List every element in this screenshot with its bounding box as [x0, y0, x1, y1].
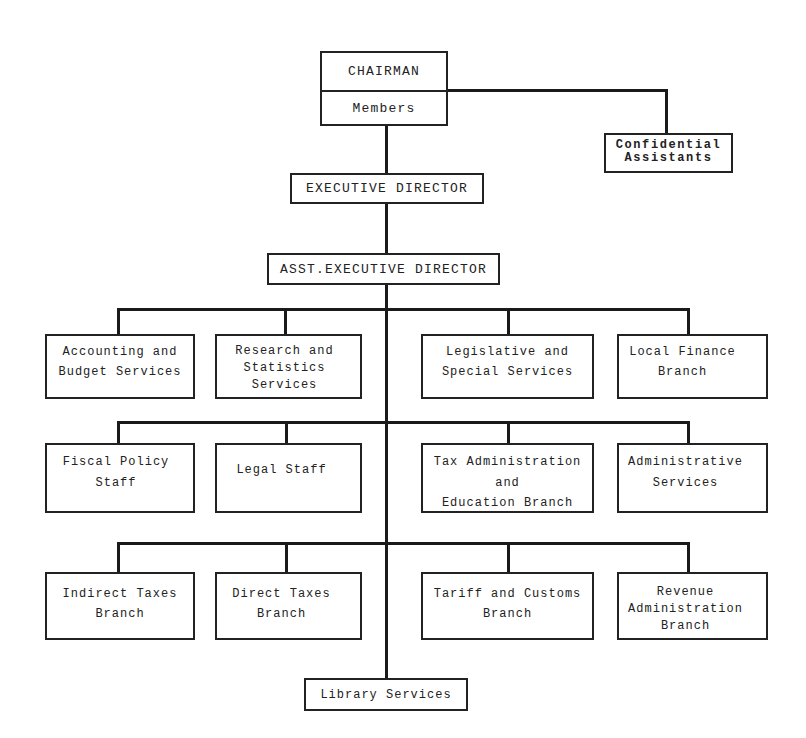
connector-tier3-drop: [507, 542, 510, 572]
executive-director-box: EXECUTIVE DIRECTOR: [290, 173, 484, 204]
unit-label-line: Local Finance: [619, 342, 746, 362]
connector-tier1-drop: [117, 308, 120, 334]
chairman-cell: CHAIRMAN: [322, 53, 446, 90]
unit-accounting-budget-services: Accounting and Budget Services: [45, 334, 195, 399]
connector-tier3-drop: [285, 542, 288, 572]
connector-tier1-drop: [507, 308, 510, 334]
org-chart: CHAIRMAN Members Confidential Assistants…: [0, 0, 806, 738]
connector-chairman-to-executive: [385, 126, 388, 173]
connector-tier3-drop: [687, 542, 690, 572]
unit-label-line: Branch: [619, 362, 746, 382]
chairman-label: CHAIRMAN: [348, 64, 420, 79]
connector-executive-to-asst: [385, 204, 388, 253]
unit-label-line: Tax Administration: [423, 452, 592, 473]
executive-director-label: EXECUTIVE DIRECTOR: [292, 181, 482, 196]
unit-direct-taxes-branch: Direct Taxes Branch: [215, 572, 362, 640]
unit-label-line: Legal Staff: [217, 460, 346, 481]
connector-tier2-bus: [117, 421, 690, 424]
asst-executive-director-box: ASST.EXECUTIVE DIRECTOR: [267, 253, 500, 285]
unit-legislative-special-services: Legislative and Special Services: [421, 334, 594, 399]
connector-tier1-drop: [284, 308, 287, 334]
unit-label-line: Branch: [423, 604, 592, 624]
unit-label-line: Direct Taxes: [217, 584, 346, 604]
unit-label-line: Assistants: [606, 152, 731, 165]
unit-label-line: Statistics: [217, 360, 352, 377]
asst-executive-director-label: ASST.EXECUTIVE DIRECTOR: [269, 262, 498, 277]
unit-label-line: and: [423, 473, 592, 494]
connector-tier2-drop: [687, 421, 690, 443]
unit-label-line: Branch: [619, 618, 752, 635]
connector-tier3-drop: [117, 542, 120, 572]
members-cell: Members: [322, 90, 446, 124]
unit-label-line: Fiscal Policy: [47, 452, 185, 473]
unit-tariff-customs-branch: Tariff and Customs Branch: [421, 572, 594, 640]
chairman-box: CHAIRMAN Members: [320, 51, 448, 126]
unit-indirect-taxes-branch: Indirect Taxes Branch: [45, 572, 195, 640]
connector-tier2-drop: [285, 421, 288, 443]
connector-tier3-bus: [117, 542, 690, 545]
connector-tier2-drop: [117, 421, 120, 443]
unit-label-line: Indirect Taxes: [47, 584, 193, 604]
unit-label-line: Services: [217, 377, 352, 394]
unit-label-line: Education Branch: [423, 493, 592, 514]
unit-label-line: Accounting and: [47, 342, 193, 362]
unit-label-line: Revenue: [619, 584, 752, 601]
unit-label-line: Budget Services: [47, 362, 193, 382]
members-label: Members: [352, 101, 415, 116]
unit-tax-administration-education-branch: Tax Administration and Education Branch: [421, 443, 594, 513]
unit-label-line: Special Services: [423, 362, 592, 382]
unit-legal-staff: Legal Staff: [215, 443, 362, 513]
connector-tier2-drop: [507, 421, 510, 443]
connector-chairman-to-confidential-v: [665, 89, 668, 133]
unit-label-line: Administration: [619, 601, 752, 618]
unit-label-line: Staff: [47, 473, 185, 494]
connector-chairman-to-confidential-h: [448, 89, 667, 92]
unit-label-line: Branch: [217, 604, 346, 624]
unit-label-line: Tariff and Customs: [423, 584, 592, 604]
connector-tier1-drop: [687, 308, 690, 334]
unit-local-finance-branch: Local Finance Branch: [617, 334, 768, 399]
connector-tier1-bus: [117, 308, 690, 311]
library-services-box: Library Services: [304, 678, 468, 711]
unit-label-line: Services: [619, 473, 752, 494]
unit-label-line: Legislative and: [423, 342, 592, 362]
unit-research-statistics-services: Research and Statistics Services: [215, 334, 362, 399]
unit-label-line: Branch: [47, 604, 193, 624]
unit-fiscal-policy-staff: Fiscal Policy Staff: [45, 443, 195, 513]
unit-administrative-services: Administrative Services: [617, 443, 768, 513]
connector-main-trunk: [385, 285, 388, 678]
library-services-label: Library Services: [306, 688, 466, 702]
confidential-assistants-box: Confidential Assistants: [604, 133, 733, 173]
unit-revenue-administration-branch: Revenue Administration Branch: [617, 572, 768, 640]
unit-label-line: Administrative: [619, 452, 752, 473]
unit-label-line: Research and: [217, 343, 352, 360]
